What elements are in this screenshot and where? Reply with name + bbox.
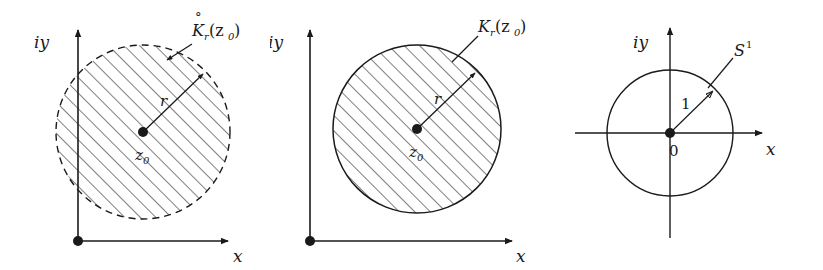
set-label-base: S xyxy=(734,41,745,60)
radius-arrow xyxy=(670,92,712,133)
y-axis-label: iy xyxy=(34,32,49,52)
origin-label: 0 xyxy=(669,142,679,160)
radius-label: r xyxy=(160,92,168,110)
y-axis-label: iy xyxy=(270,32,283,52)
complex-plane-disk-figure: iy x ° K r (z 0 ) r z 0 xyxy=(0,0,823,270)
y-axis-label: iy xyxy=(633,32,648,52)
set-label-paren-open: (z xyxy=(495,17,510,36)
set-label-group: S 1 xyxy=(734,39,752,60)
panel-closed-disk: iy x K r (z 0 ) r z 0 xyxy=(270,0,550,270)
radius-label: r xyxy=(434,90,442,108)
center-label-subscript: 0 xyxy=(143,155,150,166)
panel-unit-circle: iy x S 1 1 0 xyxy=(550,0,823,270)
set-label-group: ° K r (z 0 ) xyxy=(191,10,240,42)
set-label-paren-close: ) xyxy=(234,21,240,40)
set-label-group: K r (z 0 ) xyxy=(477,17,526,38)
panel-unit-circle-canvas: iy x S 1 1 0 xyxy=(550,0,823,270)
set-label-superscript: 1 xyxy=(746,39,752,50)
set-label-leader xyxy=(708,58,733,88)
x-axis-label: x xyxy=(516,246,526,266)
set-label-paren-close: ) xyxy=(520,17,526,36)
panel-closed-disk-canvas: iy x K r (z 0 ) r z 0 xyxy=(270,0,550,270)
set-label-leader xyxy=(452,36,478,62)
x-axis-label: x xyxy=(233,246,243,266)
radius-label: 1 xyxy=(681,95,691,113)
origin-dot xyxy=(305,236,315,246)
center-label-base: z xyxy=(408,143,417,161)
x-axis-label: x xyxy=(766,139,776,159)
panel-open-disk: iy x ° K r (z 0 ) r z 0 xyxy=(0,0,270,270)
center-dot xyxy=(138,127,148,137)
set-label-base: K xyxy=(477,17,491,36)
center-label-base: z xyxy=(134,146,143,164)
center-dot xyxy=(412,124,422,134)
panel-open-disk-canvas: iy x ° K r (z 0 ) r z 0 xyxy=(0,0,270,270)
origin-dot xyxy=(665,128,675,138)
origin-dot xyxy=(73,236,83,246)
center-label-subscript: 0 xyxy=(417,152,424,163)
set-label-base: K xyxy=(191,21,205,40)
set-label-paren-open: (z xyxy=(209,21,224,40)
